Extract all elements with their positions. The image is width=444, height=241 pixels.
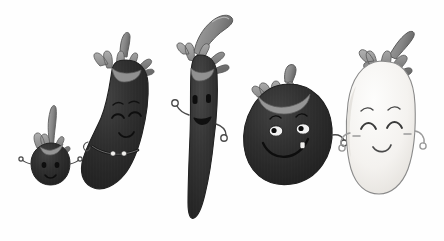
belt-button-2[interactable] <box>121 151 126 156</box>
eye-right <box>55 162 60 168</box>
eggplant-illustration-canvas: Five cartoon eggplant characters in a ro… <box>0 0 444 241</box>
eye-left <box>193 95 198 104</box>
pupil-left <box>271 128 276 133</box>
body <box>346 61 415 194</box>
tooth <box>300 142 305 149</box>
eggplant-scene-svg <box>0 0 444 241</box>
eye-right <box>206 94 211 103</box>
belt-button-1[interactable] <box>110 151 115 156</box>
pupil-right <box>298 126 303 131</box>
eye-left <box>42 162 47 168</box>
